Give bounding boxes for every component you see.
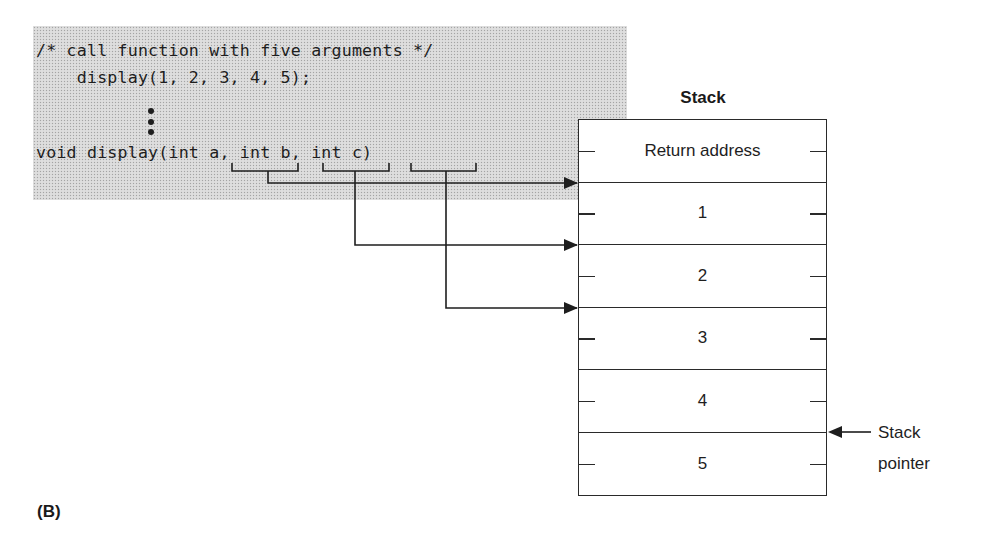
stack-pointer-label-line2: pointer xyxy=(878,448,930,479)
figure-label: (B) xyxy=(37,502,61,522)
stack-pointer-label-line1: Stack xyxy=(878,417,921,448)
stack-pointer-arrow-icon xyxy=(0,0,982,537)
